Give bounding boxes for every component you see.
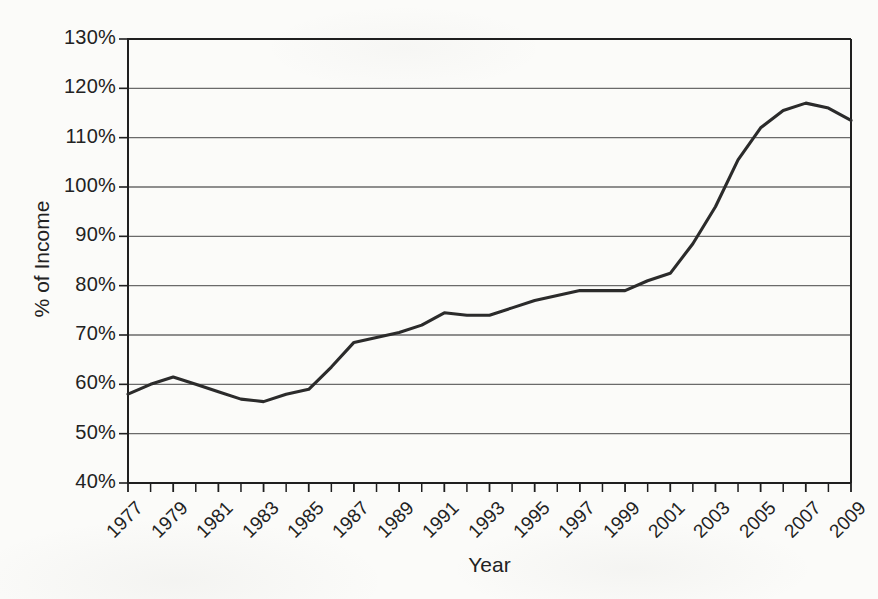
x-minor-tick-group (128, 483, 851, 492)
y-tick-label: 120% (40, 75, 116, 98)
y-tick-label: 110% (40, 125, 116, 148)
y-tick-label: 60% (40, 371, 116, 394)
plot-frame (128, 38, 851, 484)
y-tick-mark-group (119, 39, 128, 483)
chart-page: 130%120%110%100%90%80%70%60%50%40% 19771… (0, 0, 878, 599)
y-tick-label: 40% (40, 470, 116, 493)
gridline-group (128, 88, 851, 433)
data-series-group (128, 103, 851, 401)
x-axis-title: Year (390, 553, 590, 577)
y-tick-label: 130% (40, 26, 116, 49)
y-axis-title: % of Income (30, 169, 54, 349)
y-tick-label: 50% (40, 421, 116, 444)
